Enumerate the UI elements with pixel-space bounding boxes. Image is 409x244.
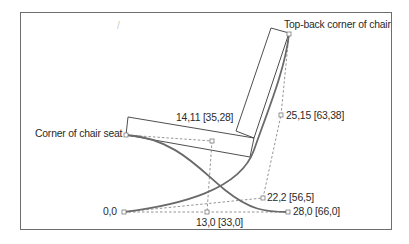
control-line-22-2-25-15 [263, 115, 281, 198]
label-top-back-corner: Top-back corner of chair [284, 18, 391, 30]
label-point-13-0: 13,0 [33,0] [196, 216, 243, 228]
point-marker-22-2 [261, 196, 265, 200]
label-point-28-0: 28,0 [66,0] [293, 205, 340, 217]
label-point-14-11: 14,11 [35,28] [176, 111, 233, 123]
point-marker-origin [122, 210, 126, 214]
label-seat-corner: Corner of chair seat [35, 127, 122, 139]
point-marker-13-0 [205, 210, 209, 214]
label-point-origin: 0,0 [103, 205, 117, 217]
point-marker-25-15 [279, 113, 283, 117]
front-leg-curve [126, 135, 288, 212]
label-point-22-2: 22,2 [56,5] [267, 191, 314, 203]
rear-leg-curve [124, 34, 289, 212]
point-marker-28-0 [286, 210, 290, 214]
chair-back-outline [236, 28, 289, 138]
point-marker-seat-corner [124, 133, 128, 137]
point-marker-top-back [287, 32, 291, 36]
stray-mark: / [117, 20, 120, 31]
label-point-25-15: 25,15 [63,38] [286, 109, 344, 121]
point-marker-14-11 [210, 139, 214, 143]
